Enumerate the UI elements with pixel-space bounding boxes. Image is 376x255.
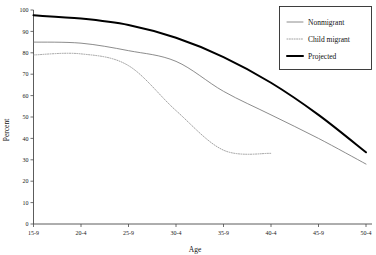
legend-label: Nonmigrant (308, 18, 345, 27)
legend-label: Child migrant (308, 35, 351, 44)
x-tick-label: 25-9 (123, 230, 134, 236)
y-tick-label: 20 (23, 178, 29, 184)
x-axis-ticks: 15-920-425-930-435-940-445-950-4 (28, 224, 372, 236)
y-axis-ticks: 0102030405060708090100 (20, 7, 34, 227)
y-tick-label: 30 (23, 157, 29, 163)
y-axis-title: Percent (2, 118, 11, 141)
y-tick-label: 80 (23, 50, 29, 56)
series-line (34, 53, 272, 154)
y-tick-label: 10 (23, 200, 29, 206)
x-tick-label: 50-4 (361, 230, 372, 236)
y-tick-label: 60 (23, 93, 29, 99)
x-tick-label: 20-4 (76, 230, 87, 236)
y-tick-label: 100 (20, 7, 29, 13)
legend-label: Projected (308, 52, 337, 61)
x-tick-label: 40-4 (266, 230, 277, 236)
legend: NonmigrantChild migrantProjected (280, 7, 372, 70)
y-tick-label: 50 (23, 114, 29, 120)
y-tick-label: 90 (23, 29, 29, 35)
line-chart: 0102030405060708090100 15-920-425-930-43… (0, 0, 376, 255)
chart-svg: 0102030405060708090100 15-920-425-930-43… (0, 0, 376, 255)
y-tick-label: 40 (23, 136, 29, 142)
y-tick-label: 70 (23, 71, 29, 77)
x-tick-label: 45-9 (313, 230, 324, 236)
x-tick-label: 30-4 (171, 230, 182, 236)
x-tick-label: 35-9 (218, 230, 229, 236)
y-tick-label: 0 (26, 221, 29, 227)
x-axis-title: Age (189, 245, 202, 254)
x-tick-label: 15-9 (28, 230, 39, 236)
